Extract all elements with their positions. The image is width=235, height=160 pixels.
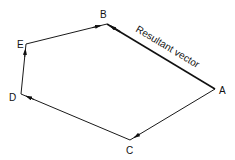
label-a: A bbox=[219, 85, 226, 96]
vector-a-to-c bbox=[130, 89, 215, 140]
arrowhead-b-resultant bbox=[110, 26, 120, 32]
arrowhead-b-from-e bbox=[92, 26, 101, 28]
vector-c-to-d bbox=[21, 94, 130, 140]
resultant-vector-line bbox=[107, 24, 215, 89]
vector-diagram: B E D C A Resultant vector bbox=[0, 0, 235, 160]
arrowhead-d bbox=[26, 96, 34, 99]
label-d: D bbox=[9, 92, 16, 103]
arrowhead-e bbox=[25, 49, 26, 57]
label-e: E bbox=[17, 39, 24, 50]
label-c: C bbox=[126, 145, 133, 156]
arrowhead-c bbox=[134, 134, 140, 138]
label-b: B bbox=[100, 9, 107, 20]
